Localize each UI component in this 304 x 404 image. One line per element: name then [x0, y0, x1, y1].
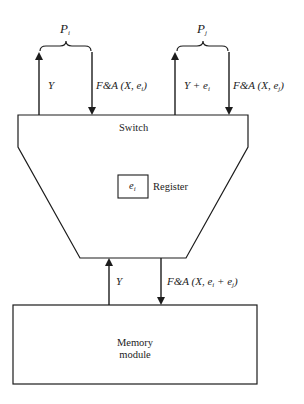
memory-label-line2: module [100, 349, 170, 361]
processor-pi-label: Pi [60, 22, 70, 37]
pi-down-label: F&A (X, ei) [96, 80, 147, 93]
memory-label: Memory module [100, 337, 170, 361]
memory-up-label: Y [116, 276, 122, 287]
brace-pj [177, 41, 228, 51]
memory-label-line1: Memory [100, 337, 170, 349]
memory-down-label: F&A (X, ei + ej) [167, 276, 238, 289]
register-label: Register [153, 182, 188, 193]
diagram-canvas: Pi Pj Y F&A (X, ei) Y + ei F&A (X, ej) S… [0, 0, 304, 404]
pj-up-label: Y + ei [184, 80, 210, 93]
brace-pi [40, 41, 91, 51]
processor-pj-label: Pj [197, 22, 207, 37]
pj-down-label: F&A (X, ej) [233, 80, 284, 93]
register-content: ei [129, 181, 136, 193]
switch-label: Switch [119, 123, 148, 134]
pi-up-label: Y [48, 80, 54, 91]
